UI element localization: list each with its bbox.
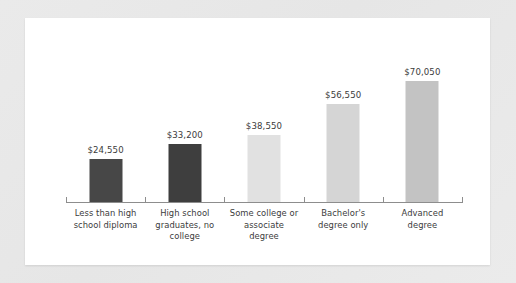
bar-value-label: $70,050	[404, 67, 440, 77]
axis-tick	[66, 197, 67, 203]
bar-value-label: $33,200	[167, 130, 203, 140]
bars-layer: $24,550 $33,200 $38,550 $56,550	[66, 18, 462, 203]
category-label-line: graduates, no	[145, 220, 224, 232]
bar-group[interactable]: $38,550	[224, 17, 303, 202]
category-label-line: Less than high	[66, 208, 145, 220]
category-label-line: Advanced	[383, 208, 462, 220]
bar-group[interactable]: $70,050	[383, 17, 462, 202]
category-label-line: degree only	[304, 220, 383, 232]
bar-value-label: $56,550	[325, 90, 361, 100]
axis-tick	[304, 197, 305, 203]
bar[interactable]	[327, 104, 360, 202]
category-label-line: degree	[224, 231, 303, 243]
category-label-line: degree	[383, 220, 462, 232]
category-label-line: Bachelor's	[304, 208, 383, 220]
category-label-line: Some college or	[224, 208, 303, 220]
axis-tick	[383, 197, 384, 203]
axis-tick	[224, 197, 225, 203]
axis-tick	[145, 197, 146, 203]
chart-panel: $24,550 $33,200 $38,550 $56,550	[25, 18, 490, 265]
category-label-line: associate	[224, 220, 303, 232]
figure-root: $24,550 $33,200 $38,550 $56,550	[0, 0, 516, 283]
category-labels: Less than highschool diploma High school…	[66, 208, 462, 260]
x-axis-line	[66, 202, 462, 203]
axis-tick	[462, 197, 463, 203]
bar[interactable]	[247, 135, 280, 202]
bar-value-label: $24,550	[87, 145, 123, 155]
bar-value-label: $38,550	[246, 121, 282, 131]
plot-area: $24,550 $33,200 $38,550 $56,550	[25, 18, 490, 265]
bar-group[interactable]: $56,550	[304, 17, 383, 202]
category-label: Less than highschool diploma	[66, 208, 145, 231]
category-label: Some college orassociatedegree	[224, 208, 303, 243]
category-label-line: school diploma	[66, 220, 145, 232]
bar[interactable]	[168, 144, 201, 202]
category-label-line: High school	[145, 208, 224, 220]
bar[interactable]	[89, 159, 122, 202]
bar-group[interactable]: $33,200	[145, 17, 224, 202]
bar[interactable]	[406, 81, 439, 202]
category-label: Bachelor'sdegree only	[304, 208, 383, 231]
category-label: Advanceddegree	[383, 208, 462, 231]
category-label-line: college	[145, 231, 224, 243]
bar-group[interactable]: $24,550	[66, 17, 145, 202]
category-label: High schoolgraduates, nocollege	[145, 208, 224, 243]
